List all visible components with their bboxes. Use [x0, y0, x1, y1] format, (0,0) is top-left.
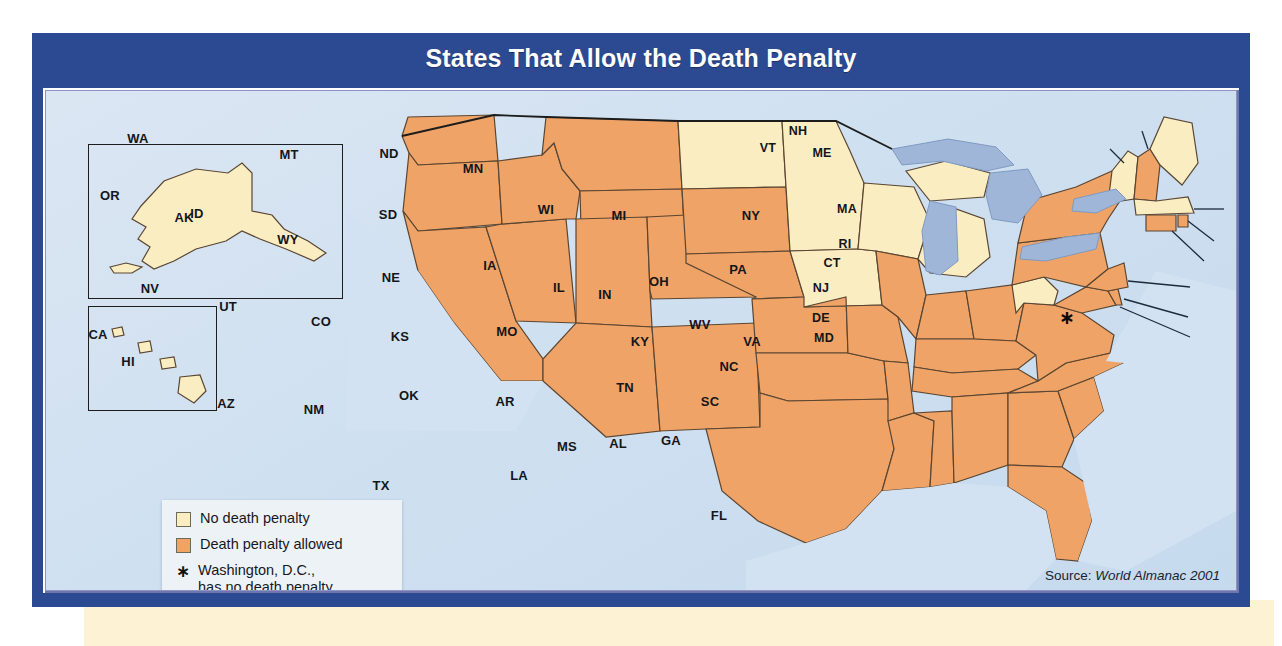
state-IN [916, 291, 974, 339]
source-prefix: Source: [1045, 568, 1095, 583]
state-UT [576, 217, 652, 327]
state-label-MS: MS [557, 439, 577, 454]
state-label-IL: IL [553, 280, 565, 295]
state-label-MT: MT [279, 147, 298, 162]
state-label-NV: NV [141, 281, 159, 296]
state-label-NM: NM [304, 402, 325, 417]
state-WA [402, 115, 498, 165]
state-label-WA: WA [127, 131, 148, 146]
state-CT [1146, 215, 1176, 231]
legend-label-no-penalty: No death penalty [200, 510, 310, 527]
legend-asterisk-icon: ∗ [176, 563, 189, 580]
legend-swatch-no-penalty [176, 512, 191, 527]
state-label-OH: OH [649, 274, 669, 289]
state-label-WY: WY [277, 232, 298, 247]
state-label-AZ: AZ [217, 396, 235, 411]
state-label-OR: OR [100, 188, 120, 203]
state-label-TX: TX [372, 478, 389, 493]
state-label-KS: KS [391, 329, 409, 344]
state-ND [678, 121, 786, 189]
title-bar: States That Allow the Death Penalty [32, 33, 1250, 83]
state-label-NC: NC [719, 359, 738, 374]
map-plate-bevel: .s{stroke:#5a4632;stroke-width:1.2;} .al… [43, 88, 1239, 593]
state-WI [858, 183, 930, 259]
state-label-IN: IN [598, 287, 611, 302]
state-label-SC: SC [701, 394, 719, 409]
state-label-NY: NY [742, 208, 760, 223]
state-label-PA: PA [729, 262, 747, 277]
leader-VT [1110, 149, 1124, 163]
state-label-DE: DE [812, 311, 830, 325]
state-label-RI: RI [839, 237, 852, 251]
state-OK [756, 353, 888, 401]
source-credit: Source: World Almanac 2001 [1045, 568, 1220, 583]
map-frame: States That Allow the Death Penalty .s{s… [32, 33, 1250, 607]
page-title: States That Allow the Death Penalty [425, 44, 856, 73]
state-label-AL: AL [609, 436, 627, 451]
leader-RI [1188, 221, 1214, 241]
state-label-ME: ME [812, 146, 831, 160]
state-label-IA: IA [483, 258, 496, 273]
hawaii-inset-box [88, 306, 217, 411]
state-label-KY: KY [631, 334, 649, 349]
dc-asterisk-marker: ∗ [1059, 306, 1075, 329]
state-label-MA: MA [837, 202, 857, 216]
state-RI [1178, 215, 1188, 227]
leader-CT [1172, 231, 1204, 261]
map-plate: .s{stroke:#5a4632;stroke-width:1.2;} .al… [46, 91, 1236, 590]
atlantic-ocean [1074, 271, 1236, 571]
state-label-ND: ND [379, 146, 398, 161]
state-label-AK: AK [174, 210, 193, 225]
state-label-UT: UT [219, 299, 237, 314]
state-OR [403, 153, 502, 231]
figure-root: States That Allow the Death Penalty .s{s… [0, 0, 1282, 646]
legend-footnote: ∗ Washington, D.C., has no death penalty… [176, 562, 390, 590]
state-label-NE: NE [382, 270, 400, 285]
leader-NH [1142, 131, 1148, 149]
state-label-CT: CT [823, 256, 840, 270]
states-layer [402, 115, 1198, 561]
state-label-HI: HI [121, 354, 134, 369]
state-label-GA: GA [661, 433, 681, 448]
alaska-inset-box [88, 144, 343, 299]
legend-label-penalty-allowed: Death penalty allowed [200, 536, 343, 553]
state-label-LA: LA [510, 468, 528, 483]
state-label-MD: MD [814, 331, 834, 345]
map-legend: No death penalty Death penalty allowed ∗… [162, 500, 402, 590]
state-label-MN: MN [463, 161, 484, 176]
legend-footnote-line1: Washington, D.C., [198, 562, 315, 578]
state-AL [952, 393, 1008, 483]
state-label-MI: MI [612, 208, 627, 223]
state-label-CO: CO [311, 314, 331, 329]
state-label-VT: VT [760, 141, 776, 155]
state-label-WI: WI [538, 202, 554, 217]
state-label-SD: SD [379, 207, 397, 222]
state-label-TN: TN [616, 380, 634, 395]
state-AR [884, 361, 914, 421]
lake-michigan [922, 201, 958, 275]
state-label-OK: OK [399, 388, 419, 403]
legend-footnote-line2: has no death penalty. [198, 579, 336, 590]
legend-swatch-penalty-allowed [176, 538, 191, 553]
state-KY [914, 339, 1036, 373]
legend-item-no-penalty: No death penalty [176, 510, 390, 527]
state-label-NJ: NJ [813, 281, 829, 295]
state-MN [782, 121, 864, 251]
state-SD [682, 187, 790, 254]
state-label-NH: NH [789, 124, 807, 138]
state-MA [1134, 197, 1194, 215]
state-label-MO: MO [496, 324, 517, 339]
state-label-VA: VA [743, 334, 761, 349]
source-work: World Almanac 2001 [1095, 568, 1220, 583]
state-label-AR: AR [495, 394, 514, 409]
state-label-FL: FL [711, 508, 727, 523]
state-label-WV: WV [689, 317, 710, 332]
legend-item-penalty-allowed: Death penalty allowed [176, 536, 390, 553]
state-label-CA: CA [88, 327, 107, 342]
